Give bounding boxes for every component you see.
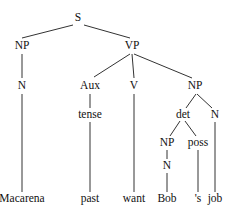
tree-node-macarena: Macarena xyxy=(0,192,45,204)
tree-node-v: V xyxy=(130,79,139,91)
tree-node-want: want xyxy=(123,192,146,204)
tree-node-past: past xyxy=(81,192,100,205)
tree-node-s: 's xyxy=(195,192,202,204)
tree-node-vp: VP xyxy=(125,39,140,51)
tree-node-n1: N xyxy=(18,79,27,91)
tree-node-job: job xyxy=(207,192,223,205)
tree-edge xyxy=(132,54,134,78)
tree-edge xyxy=(134,54,192,78)
tree-node-poss: poss xyxy=(188,136,209,149)
tree-node-det: det xyxy=(176,108,191,120)
tree-edge xyxy=(84,25,130,38)
tree-node-np3: NP xyxy=(160,136,175,148)
tree-node-np2: NP xyxy=(188,79,203,91)
tree-node-s: S xyxy=(75,11,81,23)
tree-edge xyxy=(170,121,180,136)
tree-node-bob: Bob xyxy=(157,192,176,204)
tree-node-np1: NP xyxy=(15,39,30,51)
tree-node-aux: Aux xyxy=(80,79,100,91)
tree-edge xyxy=(22,25,73,38)
tree-edge xyxy=(197,94,212,108)
tree-nodes: SNPVPNAuxVNPtensedetNNPpossNMacarenapast… xyxy=(0,11,223,205)
tree-edge xyxy=(186,94,196,108)
syntax-tree: SNPVPNAuxVNPtensedetNNPpossNMacarenapast… xyxy=(0,0,238,217)
tree-node-n3: N xyxy=(211,108,220,120)
tree-node-tense: tense xyxy=(78,108,102,120)
tree-edge xyxy=(185,121,196,136)
tree-node-n2: N xyxy=(163,159,172,171)
tree-edge xyxy=(94,54,130,77)
